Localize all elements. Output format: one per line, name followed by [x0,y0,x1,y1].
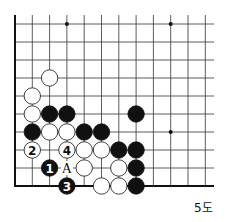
move-number-label: 3 [63,180,71,194]
black-stone [128,160,144,176]
black-stone [128,106,144,122]
black-stone [24,124,40,140]
white-stone [76,142,92,158]
move-number-label: 2 [28,144,36,158]
black-stone [59,106,75,122]
white-stone [76,160,92,176]
white-stone [93,142,109,158]
move-number-label: 4 [63,144,71,158]
white-stone [41,70,57,86]
black-stone [128,178,144,194]
black-stone [41,106,57,122]
move-number-label: 1 [45,162,53,176]
black-stone [111,142,127,158]
white-stone [24,88,40,104]
white-stone [59,124,75,140]
point-label-a: A [62,161,73,176]
white-stone [111,160,127,176]
white-stone [93,178,109,194]
white-stone [24,106,40,122]
diagram-caption: 5도 [194,198,213,215]
star-point [169,130,173,134]
white-stone [111,178,127,194]
black-stone [76,124,92,140]
white-stone [41,124,57,140]
go-board-diagram: 2413A [0,0,227,222]
black-stone [128,142,144,158]
black-stone [93,124,109,140]
star-point [169,22,173,26]
star-point [65,22,69,26]
